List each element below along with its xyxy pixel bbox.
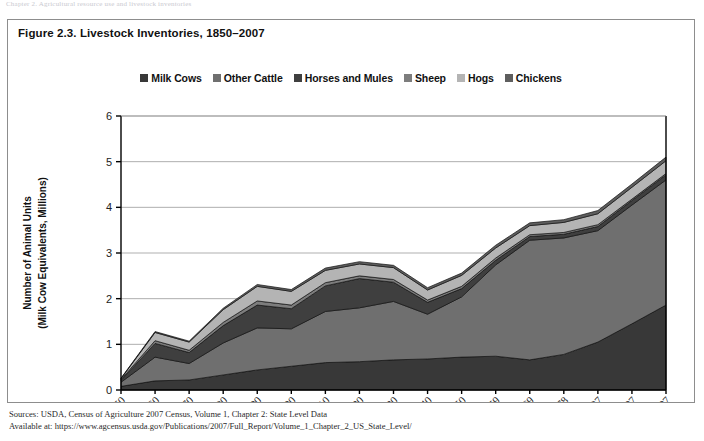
legend-label: Sheep xyxy=(415,72,446,84)
y-axis-title-line1: Number of Animal Units xyxy=(22,196,33,310)
x-tick-label: 2007 xyxy=(648,394,672,402)
x-tick-label: 1900 xyxy=(274,394,298,402)
y-axis-title-line2: (Milk Cow Equivalents, Millions) xyxy=(37,177,48,329)
chart-area: Number of Animal Units(Milk Cow Equivale… xyxy=(8,92,696,402)
legend-item-sheep[interactable]: Sheep xyxy=(404,72,446,84)
legend-swatch-icon xyxy=(404,74,412,82)
sources-line: Sources: USDA, Census of Agriculture 200… xyxy=(9,408,699,420)
legend-swatch-icon xyxy=(140,74,148,82)
legend-label: Hogs xyxy=(468,72,494,84)
x-tick-label: 1940 xyxy=(410,394,434,402)
legend-swatch-icon xyxy=(505,74,513,82)
y-tick-label: 3 xyxy=(106,247,112,259)
legend-item-milk-cows[interactable]: Milk Cows xyxy=(140,72,201,84)
x-tick-label: 1930 xyxy=(376,394,400,402)
y-tick-label: 5 xyxy=(106,156,112,168)
legend-item-horses-and-mules[interactable]: Horses and Mules xyxy=(294,72,393,84)
y-tick-label: 4 xyxy=(106,201,112,213)
legend-label: Chickens xyxy=(516,72,562,84)
x-tick-label: 1910 xyxy=(308,394,332,402)
x-tick-label: 1987 xyxy=(580,394,604,402)
chart-legend: Milk CowsOther CattleHorses and MulesShe… xyxy=(8,72,694,84)
y-tick-label: 2 xyxy=(106,293,112,305)
x-tick-label: 1978 xyxy=(546,394,570,402)
stacked-area-chart: Number of Animal Units(Milk Cow Equivale… xyxy=(8,92,696,402)
x-tick-label: 1920 xyxy=(342,394,366,402)
legend-swatch-icon xyxy=(213,74,221,82)
legend-label: Milk Cows xyxy=(151,72,201,84)
legend-item-hogs[interactable]: Hogs xyxy=(457,72,494,84)
x-tick-label: 1950 xyxy=(444,394,468,402)
legend-label: Other Cattle xyxy=(224,72,283,84)
legend-label: Horses and Mules xyxy=(305,72,393,84)
x-tick-label: 1969 xyxy=(512,394,536,402)
x-tick-label: 1860 xyxy=(137,394,161,402)
legend-item-other-cattle[interactable]: Other Cattle xyxy=(213,72,283,84)
y-axis-title: Number of Animal Units(Milk Cow Equivale… xyxy=(22,177,48,329)
y-tick-label: 1 xyxy=(106,338,112,350)
figure-container: Figure 2.3. Livestock Inventories, 1850–… xyxy=(7,19,695,403)
y-tick-label: 0 xyxy=(106,384,112,396)
figure-title: Figure 2.3. Livestock Inventories, 1850–… xyxy=(18,27,265,39)
x-tick-label: 1880 xyxy=(206,394,230,402)
legend-item-chickens[interactable]: Chickens xyxy=(505,72,562,84)
x-tick-label: 1870 xyxy=(171,394,195,402)
availability-line: Available at: https://www.agcensus.usda.… xyxy=(9,420,699,432)
figure-page: Chapter 2. Agricultural resource use and… xyxy=(0,0,704,441)
legend-swatch-icon xyxy=(457,74,465,82)
clipped-header-text: Chapter 2. Agricultural resource use and… xyxy=(0,0,704,12)
x-tick-label: 1959 xyxy=(478,394,502,402)
x-tick-label: 1890 xyxy=(240,394,264,402)
y-tick-label: 6 xyxy=(106,110,112,122)
x-tick-label: 1997 xyxy=(614,394,638,402)
legend-swatch-icon xyxy=(294,74,302,82)
figure-sources: Sources: USDA, Census of Agriculture 200… xyxy=(9,408,699,433)
